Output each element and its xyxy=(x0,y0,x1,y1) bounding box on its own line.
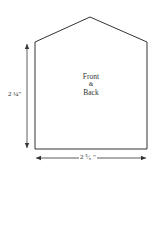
piece-label: Front & Back xyxy=(70,72,112,97)
piece-label-line2: & xyxy=(70,81,112,88)
width-dimension-label: 2 ⁵⁄₈ " xyxy=(79,153,97,161)
piece-label-line1: Front xyxy=(70,72,112,81)
height-dimension-label: 2 ¼" xyxy=(8,90,21,98)
piece-label-line3: Back xyxy=(70,88,112,97)
